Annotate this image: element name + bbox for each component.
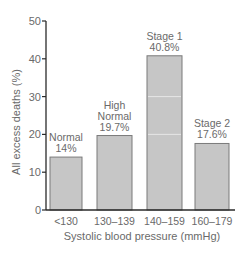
x-tick-label: 140–159 xyxy=(144,215,185,227)
y-axis: 01020304050 xyxy=(29,15,46,216)
x-tick-label: 130–139 xyxy=(94,215,135,227)
x-tick-label: 160–179 xyxy=(192,215,233,227)
y-axis-label: All excess deaths (%) xyxy=(10,69,22,175)
bar-chart: Normal14%HighNormal19.7%Stage 140.8%Stag… xyxy=(0,0,248,253)
bar-1 xyxy=(97,136,132,210)
bar-annotation-line: 19.7% xyxy=(100,121,130,133)
bar-annotation-line: 17.6% xyxy=(197,128,227,140)
y-tick-label: 50 xyxy=(29,15,41,27)
x-axis-label: Systolic blood pressure (mmHg) xyxy=(64,230,221,242)
bar-annotation-line: 40.8% xyxy=(150,41,180,53)
y-tick-label: 30 xyxy=(29,91,41,103)
bar-2 xyxy=(147,56,182,210)
x-tick-label: <130 xyxy=(54,215,78,227)
y-tick-label: 40 xyxy=(29,53,41,65)
bar-0 xyxy=(50,157,82,210)
bar-3 xyxy=(195,143,229,210)
y-tick-label: 20 xyxy=(29,128,41,140)
bar-annotations: Normal14%HighNormal19.7%Stage 140.8%Stag… xyxy=(49,30,230,154)
y-tick-label: 10 xyxy=(29,166,41,178)
chart-canvas: Normal14%HighNormal19.7%Stage 140.8%Stag… xyxy=(0,0,248,253)
y-tick-label: 0 xyxy=(35,204,41,216)
x-axis: <130130–139140–159160–179 xyxy=(46,210,235,227)
bar-annotation-line: 14% xyxy=(55,142,76,154)
